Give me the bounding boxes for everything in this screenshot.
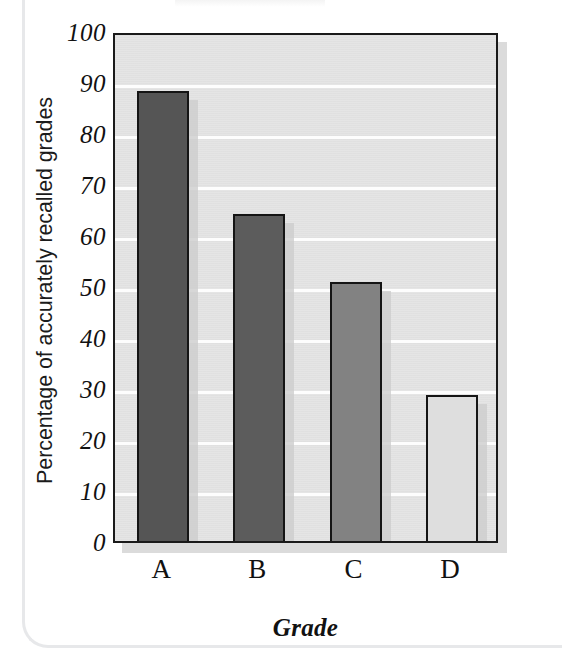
y-tick-label-80: 80	[46, 122, 106, 147]
y-tick-label-20: 20	[46, 428, 106, 453]
bar-D[interactable]	[426, 395, 478, 543]
y-tick-label-10: 10	[46, 479, 106, 504]
x-tick-label-B: B	[217, 556, 297, 583]
x-tick-label-C: C	[314, 556, 394, 583]
bar-C[interactable]	[330, 282, 382, 543]
y-tick-label-0: 0	[46, 530, 106, 555]
y-tick-label-70: 70	[46, 173, 106, 198]
bar-A[interactable]	[137, 91, 189, 543]
y-tick-label-50: 50	[46, 275, 106, 300]
y-tick-label-90: 90	[46, 71, 106, 96]
bar-B[interactable]	[233, 214, 285, 544]
y-tick-label-30: 30	[46, 377, 106, 402]
y-tick-label-100: 100	[46, 20, 106, 45]
x-tick-label-D: D	[410, 556, 490, 583]
y-tick-label-60: 60	[46, 224, 106, 249]
gridline-90	[115, 85, 496, 88]
x-tick-label-A: A	[121, 556, 201, 583]
plot-area	[113, 33, 498, 543]
y-tick-label-40: 40	[46, 326, 106, 351]
x-axis-title: Grade	[113, 614, 498, 642]
y-axis-tick-labels: 1009080706050403020100	[40, 33, 106, 543]
